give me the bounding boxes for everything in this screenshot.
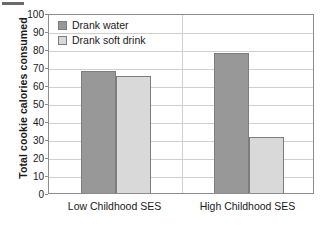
y-axis-tick-mark xyxy=(45,50,48,51)
y-axis-tick-label: 30 xyxy=(4,135,44,146)
y-axis-tick-mark xyxy=(45,32,48,33)
y-axis-tick-mark xyxy=(45,194,48,195)
legend-swatch-drank-water xyxy=(58,21,67,30)
y-axis-tick-mark xyxy=(45,104,48,105)
y-axis-tick-label: 40 xyxy=(4,117,44,128)
y-axis-tick-label: 50 xyxy=(4,99,44,110)
bar xyxy=(116,76,151,193)
legend-label-drank-water: Drank water xyxy=(72,19,129,31)
gridline xyxy=(49,51,313,52)
y-axis-tick-mark xyxy=(45,176,48,177)
y-axis-tick-label: 90 xyxy=(4,27,44,38)
y-axis-tick-label: 80 xyxy=(4,45,44,56)
y-axis-tick-mark xyxy=(45,140,48,141)
gridline xyxy=(49,69,313,70)
legend: Drank water Drank soft drink xyxy=(58,19,146,46)
legend-swatch-drank-soft-drink xyxy=(58,36,67,45)
legend-item-drank-water: Drank water xyxy=(58,19,146,31)
y-axis-tick-label: 70 xyxy=(4,63,44,74)
y-axis-tick-label: 0 xyxy=(4,189,44,200)
legend-label-drank-soft-drink: Drank soft drink xyxy=(72,34,146,46)
bar xyxy=(81,71,116,193)
y-axis-tick-label: 10 xyxy=(4,171,44,182)
y-axis-tick-mark xyxy=(45,122,48,123)
bar-chart-figure: Total cookie calories consumed 010203040… xyxy=(0,0,326,226)
bar xyxy=(214,53,249,193)
legend-item-drank-soft-drink: Drank soft drink xyxy=(58,34,146,46)
group-divider xyxy=(182,15,183,193)
y-axis-tick-label: 60 xyxy=(4,81,44,92)
x-axis-category-label: High Childhood SES xyxy=(200,200,296,212)
y-axis-tick-mark xyxy=(45,86,48,87)
bar xyxy=(249,137,284,193)
y-axis-tick-label: 20 xyxy=(4,153,44,164)
x-axis-category-label: Low Childhood SES xyxy=(68,200,161,212)
y-axis-tick-mark xyxy=(45,14,48,15)
y-axis-tick-mark xyxy=(45,158,48,159)
y-axis-tick-mark xyxy=(45,68,48,69)
y-axis-tick-label: 100 xyxy=(4,9,44,20)
